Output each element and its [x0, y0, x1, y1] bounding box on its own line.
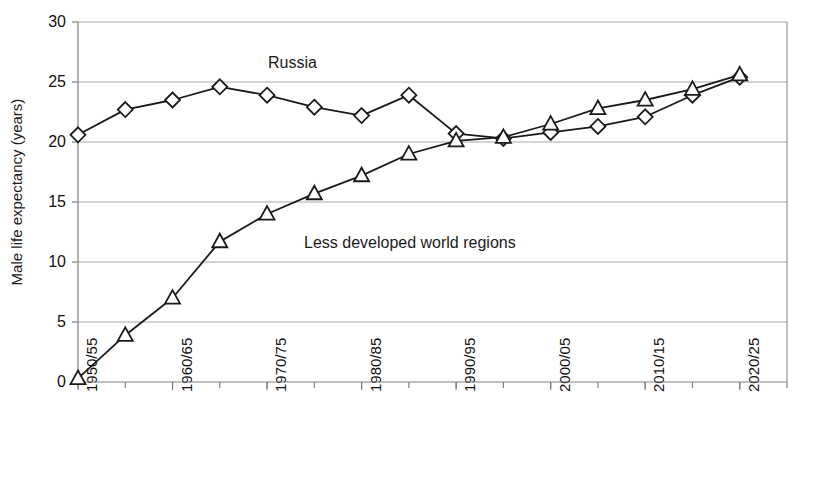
data-point-marker	[354, 168, 369, 182]
data-point-marker	[307, 100, 322, 115]
series-line	[78, 77, 740, 138]
data-point-marker	[118, 102, 133, 117]
data-point-marker	[638, 109, 653, 124]
data-point-marker	[212, 234, 227, 248]
data-point-marker	[260, 88, 275, 103]
data-point-marker	[354, 108, 369, 123]
plot-area	[0, 0, 814, 491]
data-point-marker	[260, 206, 275, 220]
data-point-marker	[590, 119, 605, 134]
data-point-marker	[165, 93, 180, 108]
data-point-marker	[71, 127, 86, 142]
data-point-marker	[118, 327, 133, 341]
chart-container: Male life expectancy (years) 05101520253…	[0, 0, 814, 491]
series-1	[71, 70, 748, 146]
